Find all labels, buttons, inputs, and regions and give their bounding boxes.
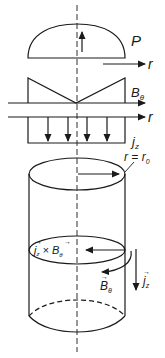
jz-profile-box	[28, 117, 125, 143]
label-force: jz × Bθ	[32, 244, 63, 258]
vec-mark-force-j: →	[35, 238, 42, 245]
label-r-1: r	[148, 56, 154, 72]
pressure-dome	[28, 24, 125, 58]
z-pinch-diagram: P r Bθ r jz r = r0 jz × Bθ → → Bθ → jz →	[0, 0, 165, 358]
vec-mark-j: →	[143, 268, 150, 275]
label-pressure: P	[131, 32, 141, 49]
label-b-theta: Bθ	[131, 85, 145, 102]
vec-mark-b: →	[101, 273, 108, 280]
label-jz-vector: jz	[141, 274, 150, 289]
label-jz: jz	[130, 134, 139, 151]
b-theta-profile	[28, 78, 125, 103]
label-b-vector: Bθ	[100, 279, 112, 294]
label-r-2: r	[148, 109, 154, 125]
label-radius: r = r0	[124, 150, 150, 165]
vec-mark-force-b: →	[64, 238, 71, 245]
